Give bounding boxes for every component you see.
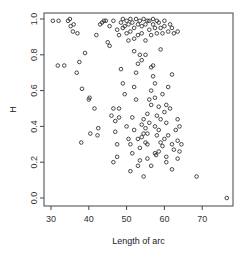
data-point <box>117 107 121 111</box>
data-point <box>72 23 76 27</box>
data-point <box>129 143 133 147</box>
y-tick-label: 0.2 <box>29 156 39 169</box>
y-tick-label: 0.8 <box>29 49 39 62</box>
data-point <box>142 132 146 136</box>
data-point <box>142 17 146 21</box>
data-point <box>163 19 167 23</box>
data-point <box>151 23 155 27</box>
data-point <box>140 32 144 36</box>
data-point <box>132 49 136 53</box>
data-point <box>117 33 121 37</box>
data-point <box>127 137 131 141</box>
data-point <box>93 107 97 111</box>
data-point <box>144 126 148 130</box>
x-tick-label: 50 <box>122 214 132 224</box>
data-point <box>157 150 161 154</box>
y-tick-label: 0.6 <box>29 84 39 97</box>
data-point <box>79 141 83 145</box>
data-point <box>161 92 165 96</box>
data-point <box>119 67 123 71</box>
data-point <box>163 137 167 141</box>
data-point <box>132 128 136 132</box>
data-point <box>136 33 140 37</box>
data-point <box>76 32 80 36</box>
data-point <box>166 30 170 34</box>
data-point <box>134 98 138 102</box>
data-point <box>121 17 125 21</box>
data-point <box>147 98 151 102</box>
data-point <box>119 21 123 25</box>
data-point <box>138 159 142 163</box>
data-point <box>108 44 112 48</box>
data-point <box>80 87 84 91</box>
data-point <box>149 33 153 37</box>
data-point <box>130 116 134 120</box>
data-point <box>170 168 174 172</box>
data-point <box>106 40 110 44</box>
data-point <box>121 82 125 86</box>
data-point <box>168 23 172 27</box>
data-point <box>115 28 119 32</box>
data-point <box>113 130 117 134</box>
data-point <box>146 132 150 136</box>
data-point <box>127 23 131 27</box>
x-tick-label: 30 <box>46 214 56 224</box>
data-point <box>112 107 116 111</box>
data-point <box>164 160 168 164</box>
data-point <box>89 132 93 136</box>
data-point <box>146 157 150 161</box>
y-axis-label: H <box>8 106 18 113</box>
data-point <box>83 51 87 55</box>
x-tick-label: 40 <box>84 214 94 224</box>
data-point <box>132 37 136 41</box>
data-point <box>140 123 144 127</box>
data-point <box>132 26 136 30</box>
data-point <box>140 135 144 139</box>
data-point <box>195 175 199 179</box>
data-point <box>166 134 170 138</box>
data-point <box>130 21 134 25</box>
data-point <box>176 117 180 121</box>
y-tick-label: 0.4 <box>29 120 39 133</box>
data-point <box>149 103 153 107</box>
data-point <box>157 105 161 109</box>
data-point <box>153 82 157 86</box>
data-point <box>75 71 79 75</box>
data-point <box>125 125 129 129</box>
data-point <box>155 134 159 138</box>
data-point <box>151 17 155 21</box>
data-point <box>144 53 148 57</box>
data-point <box>159 26 163 30</box>
data-point <box>161 144 165 148</box>
data-point <box>149 164 153 168</box>
data-point <box>129 30 133 34</box>
data-point <box>172 148 176 152</box>
data-point <box>147 121 151 125</box>
data-point <box>129 169 133 173</box>
data-point <box>112 160 116 164</box>
data-point <box>153 26 157 30</box>
data-point <box>157 128 161 132</box>
data-point <box>164 103 168 107</box>
data-point <box>155 32 159 36</box>
x-tick-label: 60 <box>159 214 169 224</box>
data-point <box>125 19 129 23</box>
data-point <box>142 117 146 121</box>
data-point <box>134 17 138 21</box>
y-tick-label: 1.0 <box>29 13 39 26</box>
data-point <box>129 17 133 21</box>
data-point <box>123 92 127 96</box>
data-point <box>146 112 150 116</box>
x-axis-label: Length of arc <box>112 236 165 246</box>
data-point <box>62 64 66 68</box>
data-point <box>164 121 168 125</box>
data-point <box>147 28 151 32</box>
data-point <box>138 19 142 23</box>
data-point <box>153 96 157 100</box>
data-point <box>117 116 121 120</box>
data-point <box>170 73 174 77</box>
data-point <box>149 89 153 93</box>
data-point <box>56 64 60 68</box>
data-point <box>170 26 174 30</box>
data-point <box>71 30 75 34</box>
